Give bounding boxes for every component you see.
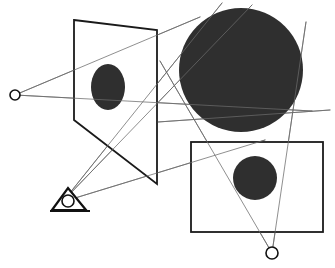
diagram-canvas [0,0,335,268]
shadow-disk-small [233,156,277,200]
eye-pupil-icon [62,195,74,207]
projective-geometry-diagram [0,0,335,268]
vanishing-point-bottom-right [266,247,278,259]
projected-ellipse [91,64,125,110]
light-source-point-left [10,90,20,100]
